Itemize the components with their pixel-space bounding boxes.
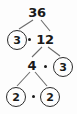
factor-tree-diagram: 36 3 12 4 3 2 2 [0, 0, 77, 114]
edge-36-to-3 [19, 20, 33, 29]
node-circled-2-right: 2 [40, 87, 60, 107]
edge-36-to-12 [41, 20, 50, 31]
edge-4-to-2-right [35, 72, 47, 86]
node-circled-2-left: 2 [6, 87, 26, 107]
node-12: 12 [36, 33, 54, 46]
node-4: 4 [27, 59, 37, 72]
edge-12-to-4 [32, 47, 42, 57]
edge-4-to-2-left [17, 72, 30, 86]
node-36: 36 [25, 6, 49, 19]
node-circled-3-level2: 3 [7, 30, 27, 50]
edge-12-to-3 [48, 47, 60, 56]
node-circled-3-level3: 3 [53, 57, 73, 77]
